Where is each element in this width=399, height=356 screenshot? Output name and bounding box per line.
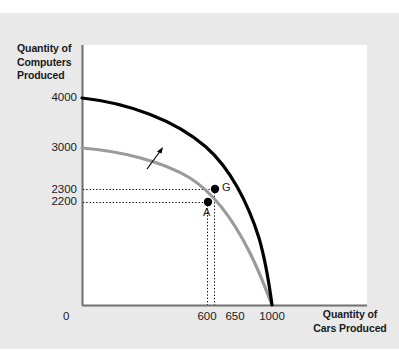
- point-a-label: A: [203, 206, 210, 218]
- x-axis-title-line-2: Cars Produced: [305, 322, 395, 336]
- y-axis-title-line-1: Quantity of: [17, 42, 79, 56]
- ppf-chart-figure: Quantity of Computers Produced Quantity …: [0, 0, 399, 356]
- y-axis-title-line-2: Computers: [17, 56, 79, 70]
- y-tick-label-3000: 3000: [33, 141, 77, 153]
- new-ppf-curve: [82, 98, 272, 305]
- x-axis-title: Quantity of Cars Produced: [305, 308, 395, 335]
- origin-tick-label: 0: [63, 310, 69, 322]
- y-tick-label-2200: 2200: [33, 195, 77, 207]
- x-tick-label-1000: 1000: [252, 310, 292, 322]
- y-tick-label-2300: 2300: [33, 183, 77, 195]
- original-ppf-curve: [82, 148, 272, 305]
- y-axis-title-line-3: Produced: [17, 69, 79, 83]
- point-g-label: G: [222, 181, 231, 193]
- y-tick-label-4000: 4000: [33, 91, 77, 103]
- x-axis-title-line-1: Quantity of: [305, 308, 395, 322]
- point-a-marker: [204, 198, 212, 206]
- y-axis-title: Quantity of Computers Produced: [17, 42, 79, 83]
- point-g-marker: [211, 185, 219, 193]
- x-tick-label-650: 650: [215, 310, 255, 322]
